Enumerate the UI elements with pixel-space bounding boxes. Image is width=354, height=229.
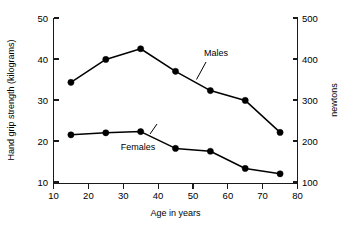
series-label-males: Males: [204, 48, 229, 58]
left-tick-label-10: 10: [37, 177, 48, 188]
series-label-females: Females: [121, 142, 156, 152]
series-line-males: [71, 49, 280, 133]
data-point: [277, 171, 283, 177]
left-tick-label-30: 30: [37, 95, 48, 106]
left-axis-ticks: [54, 18, 59, 182]
bottom-axis-ticks: [54, 184, 298, 189]
data-point: [103, 56, 109, 62]
females-leader-line: [150, 124, 157, 134]
right-axis-ticks: [293, 18, 298, 182]
y-axis-title: Hand grip strength (kilograms): [6, 39, 16, 160]
x-axis-title: Age in years: [150, 208, 201, 218]
left-tick-label-40: 40: [37, 54, 48, 65]
right-tick-label-300: 300: [302, 95, 318, 106]
bottom-tick-label-80: 80: [292, 190, 303, 201]
data-point: [172, 145, 178, 151]
y2-axis-title: newtons: [329, 83, 339, 117]
bottom-tick-label-50: 50: [188, 190, 199, 201]
data-point: [242, 97, 248, 103]
bottom-tick-label-60: 60: [223, 190, 234, 201]
data-point: [207, 148, 213, 154]
series-line-females: [71, 132, 280, 174]
right-tick-label-100: 100: [302, 177, 318, 188]
data-point: [207, 87, 213, 93]
series-females: [68, 128, 283, 176]
bottom-tick-label-10: 10: [48, 190, 59, 201]
chart-figure: 50 40 30 20 10 500 400 300 200 100 10: [0, 0, 354, 229]
left-tick-label-20: 20: [37, 136, 48, 147]
series-layer: [68, 46, 283, 177]
bottom-tick-label-70: 70: [257, 190, 268, 201]
data-point: [277, 129, 283, 135]
bottom-tick-label-20: 20: [83, 190, 94, 201]
data-point: [138, 46, 144, 52]
right-tick-label-500: 500: [302, 13, 318, 24]
axis-frame-left-bottom: [54, 18, 298, 184]
data-point: [68, 79, 74, 85]
right-tick-label-400: 400: [302, 54, 318, 65]
bottom-tick-label-40: 40: [153, 190, 164, 201]
data-point: [242, 165, 248, 171]
right-tick-label-200: 200: [302, 136, 318, 147]
line-chart: 50 40 30 20 10 500 400 300 200 100 10: [0, 0, 354, 229]
series-males: [68, 46, 283, 136]
data-point: [103, 130, 109, 136]
males-leader-line: [197, 62, 207, 80]
data-point: [68, 132, 74, 138]
data-point: [138, 128, 144, 134]
data-point: [172, 68, 178, 74]
bottom-tick-label-30: 30: [118, 190, 129, 201]
left-tick-label-50: 50: [37, 13, 48, 24]
